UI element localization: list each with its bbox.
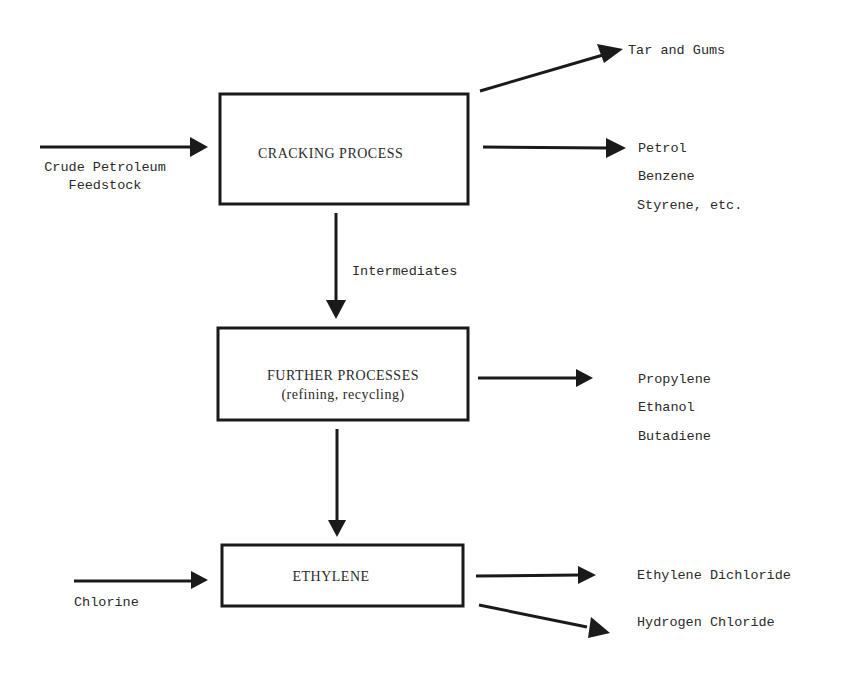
output-butadiene: Butadiene xyxy=(638,429,711,444)
edge-cracking-to-tar xyxy=(480,44,623,91)
input-crude-line2: Feedstock xyxy=(69,178,142,193)
edge-cracking-to-further xyxy=(326,213,346,319)
arrow-head-icon xyxy=(576,369,593,387)
edge-further-to-propylene xyxy=(478,369,593,387)
edge-crude-to-cracking xyxy=(40,137,208,157)
arrow-head-icon xyxy=(578,566,596,584)
output-propylene: Propylene xyxy=(638,372,711,387)
arrow-head-icon xyxy=(191,571,208,589)
edge-further-to-ethylene xyxy=(328,429,346,537)
arrow-line xyxy=(483,147,608,148)
arrow-line xyxy=(476,575,580,576)
node-further-processes: FURTHER PROCESSES (refining, recycling) xyxy=(218,328,468,420)
arrow-head-icon xyxy=(597,44,623,63)
further-processes-sublabel: (refining, recycling) xyxy=(281,387,404,403)
arrow-head-icon xyxy=(190,137,208,157)
edge-chlorine-to-ethylene xyxy=(74,571,208,589)
output-hydrogen-chloride: Hydrogen Chloride xyxy=(637,615,775,630)
node-cracking-process: CRACKING PROCESS xyxy=(220,94,468,204)
input-chlorine: Chlorine xyxy=(74,595,139,610)
cracking-process-label: CRACKING PROCESS xyxy=(258,146,403,161)
arrow-head-icon xyxy=(326,300,346,319)
further-processes-label: FURTHER PROCESSES xyxy=(267,368,419,383)
arrow-head-icon xyxy=(588,617,610,638)
edge-label-intermediates: Intermediates xyxy=(352,264,457,279)
output-petrol: Petrol xyxy=(638,141,687,156)
input-crude-line1: Crude Petroleum xyxy=(44,160,166,175)
output-benzene: Benzene xyxy=(638,169,695,184)
process-flow-diagram: CRACKING PROCESS FURTHER PROCESSES (refi… xyxy=(0,0,846,676)
edge-cracking-to-petrol xyxy=(483,138,626,158)
output-styrene: Styrene, etc. xyxy=(637,198,742,213)
output-ethanol: Ethanol xyxy=(638,400,695,415)
output-ethylene-dichloride: Ethylene Dichloride xyxy=(637,568,791,583)
edge-ethylene-to-hcl xyxy=(479,605,610,638)
arrow-line xyxy=(480,55,603,91)
ethylene-label: ETHYLENE xyxy=(292,569,369,584)
arrow-head-icon xyxy=(606,138,626,158)
edge-ethylene-to-dichloride xyxy=(476,566,596,584)
arrow-line xyxy=(479,605,587,627)
output-tar-and-gums: Tar and Gums xyxy=(628,43,725,58)
arrow-head-icon xyxy=(328,520,346,537)
node-ethylene: ETHYLENE xyxy=(222,545,463,606)
